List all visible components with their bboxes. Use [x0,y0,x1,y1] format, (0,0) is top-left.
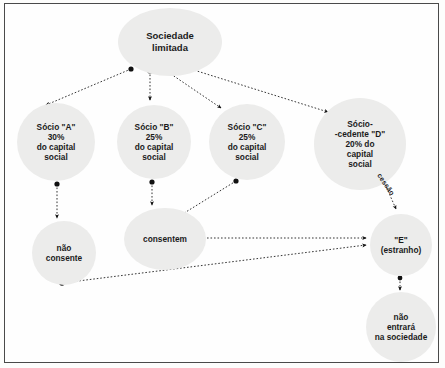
edge-socio-c-to-consentem [181,181,236,215]
node-nao-entrara-na-sociedade[interactable]: não entrará na sociedade [366,292,436,362]
node-socio-cedente-d[interactable]: Sócio- -cedente "D" 20% do capital socia… [314,98,406,190]
edge-origin-dot [149,179,154,184]
node-label: "E" (estranho) [379,235,424,255]
node-socio-a[interactable]: Sócio "A" 30% do capital social [17,103,95,181]
node-sociedade-limitada[interactable]: Sociedade limitada [118,8,222,76]
node-label: Sócio "A" 30% do capital social [35,122,78,162]
edge-sociedade-to-socio-a [46,69,131,105]
edge-origin-dot [233,178,238,183]
edge-origin-dot [398,276,403,281]
node-label: Sócio- -cedente "D" 20% do capital socia… [333,119,387,170]
node-socio-c[interactable]: Sócio "C" 25% do capital social [209,104,285,180]
node-nao-consente[interactable]: não consente [32,221,96,285]
node-label: consentem [141,234,189,244]
edge-origin-dot [128,66,133,71]
node-consentem[interactable]: consentem [124,208,206,270]
node-label: Sociedade limitada [144,30,196,53]
node-e-estranho[interactable]: "E" (estranho) [370,214,432,276]
node-label: Sócio "B" 25% do capital social [133,122,176,162]
node-label: não consente [44,243,84,263]
node-label: não entrará na sociedade [373,312,430,342]
node-label: Sócio "C" 25% do capital social [226,122,269,162]
diagram-canvas: Sociedade limitada Sócio "A" 30% do capi… [0,0,445,368]
node-socio-b[interactable]: Sócio "B" 25% do capital social [117,105,191,179]
edge-nao-consente-to-e [62,245,366,283]
edge-origin-dot [54,181,59,186]
